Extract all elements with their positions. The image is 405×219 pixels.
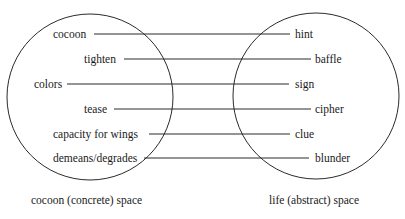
right-term: baffle — [315, 53, 342, 65]
left-term: tease — [84, 103, 107, 115]
left-term: demeans/degrades — [53, 152, 138, 165]
left-term: capacity for wings — [53, 128, 138, 141]
right-term: sign — [295, 78, 314, 91]
cocoon-space-caption: cocoon (concrete) space — [31, 194, 142, 207]
life-space-caption: life (abstract) space — [269, 194, 359, 207]
left-term: cocoon — [53, 28, 86, 40]
left-term: colors — [34, 78, 63, 90]
right-term: clue — [295, 128, 314, 140]
right-term: cipher — [315, 103, 344, 116]
right-term: blunder — [315, 152, 350, 164]
mapping-diagram: cocoon tighten colors tease capacity for… — [0, 0, 405, 219]
left-term: tighten — [84, 53, 116, 66]
right-term: hint — [295, 28, 314, 40]
